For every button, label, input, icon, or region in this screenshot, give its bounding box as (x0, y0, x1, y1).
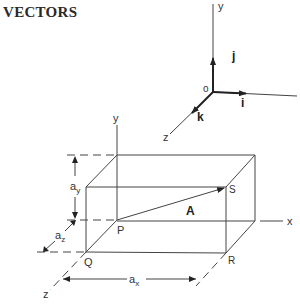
box-x-label: x (287, 215, 293, 227)
unit-axes: y j o i k z (163, 0, 297, 143)
ay-label: ay (70, 180, 80, 195)
vector-A (117, 188, 224, 220)
r-extension (196, 253, 226, 286)
ay-arrow-up (72, 156, 78, 163)
az-label: az (55, 229, 65, 244)
j-label: j (231, 49, 235, 63)
depth-bottom-right (226, 221, 255, 253)
box-z-label: z (43, 288, 49, 300)
vector-diagram: y j o i k z y x z A P (0, 0, 300, 308)
ax-arrow-right (189, 276, 196, 282)
point-P-label: P (117, 224, 124, 236)
depth-top-left (86, 155, 117, 187)
i-vector (213, 92, 246, 94)
unit-y-label: y (218, 0, 224, 12)
depth-top-right (226, 155, 255, 187)
box-z-axis (50, 252, 86, 290)
vector-A-label: A (186, 204, 195, 218)
depth-bottom-left (86, 220, 117, 252)
point-R-label: R (228, 255, 235, 266)
front-bottom-edge (86, 252, 226, 253)
box-y-label: y (113, 112, 119, 124)
point-Q-label: Q (84, 256, 93, 268)
k-label: k (197, 110, 204, 124)
i-label: i (241, 96, 244, 110)
point-S-label: S (229, 184, 236, 195)
ay-arrow-down (72, 212, 78, 219)
unit-z-label: z (163, 131, 169, 143)
ax-label: ax (129, 273, 139, 288)
ax-arrow-left (63, 276, 70, 282)
origin-label: o (203, 83, 209, 94)
